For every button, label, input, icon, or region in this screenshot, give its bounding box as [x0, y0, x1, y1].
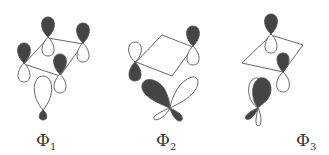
panel-phi-3 — [242, 14, 303, 126]
square-frame — [136, 35, 193, 76]
label-phi-1: Φ1 — [36, 130, 56, 152]
panel-phi-2 — [129, 26, 200, 121]
label-phi-3: Φ3 — [296, 130, 316, 152]
label-phi-2: Φ2 — [156, 130, 176, 152]
square-frame — [24, 38, 83, 76]
panel-phi-1 — [18, 17, 90, 120]
